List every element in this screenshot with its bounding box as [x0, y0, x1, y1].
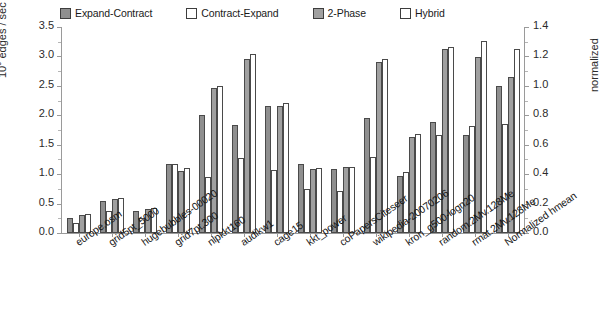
bar: [217, 86, 223, 233]
legend-label: Hybrid: [415, 7, 445, 19]
left-tick-label: 1.5: [10, 137, 54, 149]
left-tick-mark: [57, 233, 61, 234]
right-minor-tick: [525, 101, 528, 102]
left-tick-mark: [57, 115, 61, 116]
left-tick-mark: [57, 145, 61, 146]
bar: [184, 168, 190, 233]
left-minor-tick: [58, 71, 61, 72]
right-tick-label: 0.8: [533, 107, 573, 119]
bar-group: [326, 27, 359, 233]
legend-swatch-icon: [400, 8, 411, 19]
y-axis-title: 109 edges / sec: [0, 2, 8, 78]
left-minor-tick: [58, 218, 61, 219]
right-tick-label: 0.4: [533, 166, 573, 178]
y-axis-title-exponent: 9: [0, 62, 3, 66]
legend-swatch-icon: [313, 8, 324, 19]
bar-group: [128, 27, 161, 233]
legend-item-0: Expand-Contract: [60, 7, 152, 19]
right-tick-mark: [525, 56, 529, 57]
left-tick-label: 3.0: [10, 48, 54, 60]
bar: [349, 167, 355, 234]
legend-item-1: Contract-Expand: [186, 7, 278, 19]
bar-group: [293, 27, 326, 233]
bar: [283, 103, 289, 233]
left-tick-label: 2.0: [10, 107, 54, 119]
right-tick-mark: [525, 145, 529, 146]
bar-group: [227, 27, 260, 233]
left-tick-mark: [57, 174, 61, 175]
left-tick-label: 0.5: [10, 196, 54, 208]
chart-legend: Expand-ContractContract-Expand2-PhaseHyb…: [60, 4, 580, 22]
right-minor-tick: [525, 189, 528, 190]
right-minor-tick: [525, 42, 528, 43]
left-tick-mark: [57, 204, 61, 205]
right-tick-mark: [525, 27, 529, 28]
left-minor-tick: [58, 189, 61, 190]
right-tick-label: 1.2: [533, 48, 573, 60]
bar: [250, 54, 256, 234]
right-tick-mark: [525, 86, 529, 87]
legend-item-2: 2-Phase: [313, 7, 366, 19]
left-tick-mark: [57, 27, 61, 28]
left-tick-mark: [57, 86, 61, 87]
left-tick-label: 3.5: [10, 19, 54, 31]
legend-item-3: Hybrid: [400, 7, 445, 19]
right-tick-label: 0.6: [533, 137, 573, 149]
y-axis-title-base: 10: [0, 66, 8, 78]
y2-axis-title: normalized: [588, 38, 600, 92]
left-tick-label: 1.0: [10, 166, 54, 178]
left-minor-tick: [58, 42, 61, 43]
left-minor-tick: [58, 101, 61, 102]
legend-label: Contract-Expand: [201, 7, 278, 19]
left-minor-tick: [58, 159, 61, 160]
y-axis-title-rest: edges / sec: [0, 2, 8, 61]
right-tick-label: 1.4: [533, 19, 573, 31]
right-minor-tick: [525, 71, 528, 72]
bar-group: [62, 27, 95, 233]
right-tick-label: 1.0: [533, 78, 573, 90]
left-tick-mark: [57, 56, 61, 57]
bar-group: [95, 27, 128, 233]
left-tick-label: 2.5: [10, 78, 54, 90]
bar: [316, 168, 322, 233]
legend-swatch-icon: [186, 8, 197, 19]
right-tick-mark: [525, 115, 529, 116]
right-tick-mark: [525, 174, 529, 175]
left-minor-tick: [58, 130, 61, 131]
right-minor-tick: [525, 159, 528, 160]
bar-chart: Expand-ContractContract-Expand2-PhaseHyb…: [0, 0, 604, 322]
legend-swatch-icon: [60, 8, 71, 19]
legend-label: 2-Phase: [328, 7, 366, 19]
right-minor-tick: [525, 130, 528, 131]
bar-group: [260, 27, 293, 233]
legend-label: Expand-Contract: [75, 7, 152, 19]
x-axis-labels: europe.osmgrid5pt_5000hugebubbles-00020g…: [0, 236, 604, 322]
